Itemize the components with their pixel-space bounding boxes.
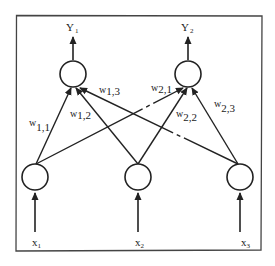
neural-network-diagram: Y1 Y2 x1 x2 x3 w1,1 w1,2 w1,3 w2,1 w2,2 … — [0, 0, 275, 266]
weight-label-w11: w1,1 — [29, 117, 50, 133]
input-node-x1 — [22, 164, 48, 190]
weight-label-w13: w1,3 — [99, 84, 120, 97]
edge-x1-y2 — [36, 88, 183, 164]
diagram-frame-border — [16, 16, 262, 252]
input-label-x1: x1 — [32, 236, 42, 250]
edge-x2-y1 — [76, 88, 138, 164]
connections — [36, 88, 238, 164]
input-node-x2 — [125, 164, 151, 190]
weight-label-w12: w1,2 — [70, 108, 91, 121]
output-node-y1 — [60, 61, 86, 87]
input-node-x3 — [227, 164, 253, 190]
output-node-y2 — [175, 61, 201, 87]
input-label-x2: x2 — [135, 236, 145, 250]
weight-label-w21: w2,1 — [151, 82, 172, 95]
output-label-y2: Y2 — [181, 21, 194, 35]
weight-label-w22: w2,2 — [176, 108, 197, 123]
output-label-y1: Y1 — [66, 21, 79, 35]
input-label-x3: x3 — [241, 236, 251, 250]
weight-label-w23: w2,3 — [214, 98, 235, 114]
edge-x2-y2 — [138, 88, 187, 164]
